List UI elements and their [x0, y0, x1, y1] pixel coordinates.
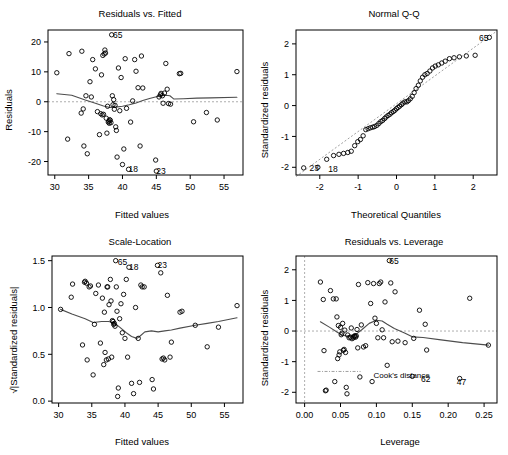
data-point	[132, 57, 136, 61]
data-point	[328, 288, 332, 292]
data-point	[80, 49, 84, 53]
data-point	[125, 355, 129, 359]
data-point	[55, 71, 59, 75]
x-tick-label: 45	[151, 182, 161, 192]
data-point	[368, 301, 372, 305]
y-tick-label: 0.5	[32, 350, 45, 360]
data-point	[334, 297, 338, 301]
data-point	[67, 51, 71, 55]
y-tick-label: 2	[284, 265, 289, 275]
y-tick-label: -2	[281, 387, 289, 397]
data-point	[109, 299, 113, 303]
panel-4-title: Residuals vs. Leverage	[345, 236, 444, 247]
x-tick-label: 50	[185, 182, 195, 192]
y-tick-label: -2	[281, 162, 289, 172]
data-point	[341, 151, 345, 155]
data-point	[105, 131, 109, 135]
data-point	[423, 322, 427, 326]
panel-residuals-vs-leverage: Residuals vs. Leverage 0.000.050.100.150…	[254, 228, 508, 455]
x-tick-label: 0.00	[296, 410, 314, 420]
x-tick-label: 1	[432, 182, 437, 192]
data-point	[337, 152, 341, 156]
outlier-label: 23	[309, 163, 319, 173]
y-tick-label: 1	[284, 70, 289, 80]
data-point	[96, 283, 100, 287]
data-point	[393, 290, 397, 294]
outlier-label: 62	[421, 374, 431, 384]
outlier-label: 65	[118, 257, 128, 267]
data-point	[81, 107, 85, 111]
data-point	[124, 277, 128, 281]
data-point	[115, 155, 119, 159]
x-tick-label: 0	[394, 182, 399, 192]
data-point	[136, 86, 140, 90]
data-point	[99, 73, 103, 77]
x-tick-label: -1	[354, 182, 362, 192]
data-point	[138, 144, 142, 148]
data-point	[335, 315, 339, 319]
panel-residuals-vs-fitted: Residuals vs. Fitted 303540455055-20-100…	[0, 0, 254, 228]
y-tick-label: 0	[36, 97, 41, 107]
data-point	[468, 296, 472, 300]
data-point	[359, 323, 363, 327]
data-point	[88, 284, 92, 288]
data-point	[84, 94, 88, 98]
data-point	[417, 308, 421, 312]
panel-scale-location: Scale-Location 3035404550550.00.51.01.56…	[0, 228, 254, 455]
data-point	[473, 53, 477, 57]
data-point	[79, 111, 83, 115]
y-tick-label: -1	[281, 132, 289, 142]
data-point	[358, 375, 362, 379]
data-point	[120, 331, 124, 335]
data-point	[102, 310, 106, 314]
data-point	[447, 56, 451, 60]
data-point	[114, 285, 118, 289]
data-point	[216, 325, 220, 329]
panel-3-xlabel: Fitted values	[115, 436, 169, 447]
data-point	[464, 54, 468, 58]
y-tick-label: 2	[284, 39, 289, 49]
data-point	[100, 296, 104, 300]
data-point	[94, 291, 98, 295]
y-tick-label: 0.0	[32, 396, 45, 406]
plot-frame	[296, 30, 497, 175]
data-point	[381, 336, 385, 340]
data-point	[204, 110, 208, 114]
lowess-smoother-line	[320, 320, 488, 345]
data-point	[118, 109, 122, 113]
data-point	[85, 152, 89, 156]
x-tick-label: 40	[120, 410, 130, 420]
data-point	[366, 280, 370, 284]
data-point	[191, 120, 195, 124]
data-point	[380, 328, 384, 332]
data-point	[165, 87, 169, 91]
panel-3-ylabel: √|Standardized residuals|	[8, 287, 19, 394]
y-tick-label: 0	[284, 326, 289, 336]
data-point	[345, 392, 349, 396]
data-point	[150, 377, 154, 381]
y-tick-label: -10	[28, 127, 41, 137]
x-tick-label: 30	[54, 410, 64, 420]
data-point	[82, 144, 86, 148]
panel-1-xlabel: Fitted values	[115, 209, 169, 220]
data-point	[322, 348, 326, 352]
data-point	[215, 118, 219, 122]
data-point	[443, 59, 447, 63]
data-point	[119, 75, 123, 79]
data-point	[108, 277, 112, 281]
data-point	[333, 379, 337, 383]
data-point	[161, 101, 165, 105]
x-tick-label: 55	[219, 410, 229, 420]
data-point	[88, 80, 92, 84]
x-tick-label: 55	[219, 182, 229, 192]
qq-reference-line	[296, 31, 497, 177]
data-point	[321, 297, 325, 301]
data-point	[111, 97, 115, 101]
data-point	[65, 137, 69, 141]
data-point	[416, 83, 420, 87]
data-point	[324, 157, 328, 161]
data-point	[169, 340, 173, 344]
data-point	[383, 300, 387, 304]
x-tick-label: 2	[471, 182, 476, 192]
data-point	[403, 340, 407, 344]
